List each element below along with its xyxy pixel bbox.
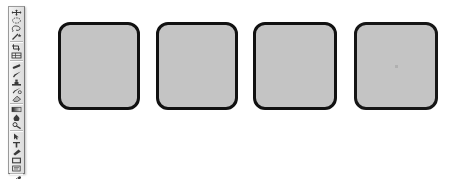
dodge-icon [11,122,22,129]
crop-tool[interactable] [9,43,24,51]
eraser-tool[interactable] [9,94,24,102]
history-brush-tool[interactable] [9,86,24,94]
blur-drop-icon [11,114,22,121]
rounded-square-2[interactable] [156,22,238,110]
dodge-tool[interactable] [9,121,24,129]
history-brush-icon [11,87,22,94]
stamp-tool[interactable] [9,78,24,86]
rounded-square-3[interactable] [253,22,337,110]
gradient-tool[interactable] [9,105,24,113]
eyedropper-tool[interactable] [9,175,24,179]
shape-tool[interactable] [9,156,24,164]
path-selection-tool[interactable] [9,132,24,140]
marquee-tool[interactable] [9,16,24,24]
slice-icon [11,52,22,59]
move-icon [11,9,22,16]
center-mark [395,65,398,68]
pen-tool[interactable] [9,148,24,156]
notes-tool[interactable] [9,164,24,172]
move-tool[interactable] [9,8,24,16]
rounded-square-4[interactable] [354,22,438,110]
tools-palette[interactable] [8,6,25,174]
crop-icon [11,44,22,51]
document-canvas[interactable] [0,0,450,179]
slice-tool[interactable] [9,51,24,59]
lasso-tool[interactable] [9,24,24,32]
healing-brush-tool[interactable] [9,62,24,70]
paintbrush-icon [11,71,22,78]
gradient-icon [11,106,22,113]
note-icon [11,165,22,172]
marquee-ellipse-icon [11,17,22,24]
healing-brush-icon [11,63,22,70]
path-arrow-icon [11,133,22,140]
rounded-square-1[interactable] [58,22,140,110]
blur-tool[interactable] [9,113,24,121]
rectangle-icon [11,157,22,164]
eyedropper-icon [11,176,22,180]
magic-wand-tool[interactable] [9,32,24,40]
eraser-icon [11,95,22,102]
text-t-icon [11,141,22,148]
magic-wand-icon [11,33,22,40]
type-tool[interactable] [9,140,24,148]
lasso-icon [11,25,22,32]
pen-icon [11,149,22,156]
brush-tool[interactable] [9,70,24,78]
clone-stamp-icon [11,79,22,86]
